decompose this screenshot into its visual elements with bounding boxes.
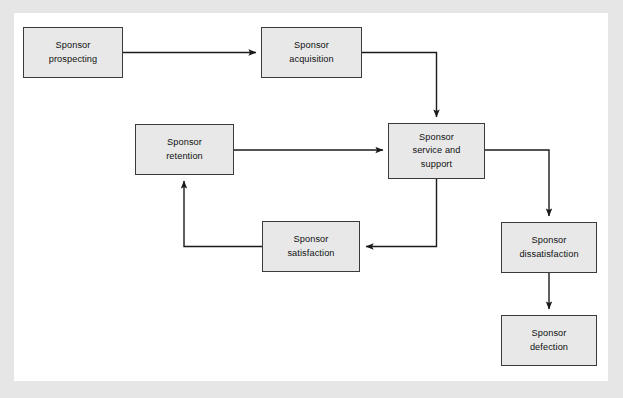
node-sponsor-defection-label: Sponsor defection [530,327,568,353]
node-sponsor-retention[interactable]: Sponsor retention [135,124,234,175]
node-sponsor-acquisition-label: Sponsor acquisition [289,39,334,65]
node-sponsor-service-and-support[interactable]: Sponsor service and support [388,123,485,179]
screenshot-root: Sponsor prospecting Sponsor acquisition … [0,0,623,398]
edge-satisfaction-to-retention [184,181,262,247]
node-sponsor-prospecting[interactable]: Sponsor prospecting [23,27,123,78]
edge-service-to-satisfaction [366,179,437,247]
edge-service-to-dissatisfaction [485,150,549,216]
node-sponsor-prospecting-label: Sponsor prospecting [49,39,98,65]
node-sponsor-defection[interactable]: Sponsor defection [501,315,597,366]
node-sponsor-dissatisfaction[interactable]: Sponsor dissatisfaction [501,222,597,273]
node-sponsor-dissatisfaction-label: Sponsor dissatisfaction [519,234,578,260]
node-sponsor-service-and-support-label: Sponsor service and support [412,131,460,171]
node-sponsor-acquisition[interactable]: Sponsor acquisition [261,27,362,78]
node-sponsor-satisfaction-label: Sponsor satisfaction [287,233,334,259]
node-sponsor-retention-label: Sponsor retention [166,136,203,162]
edge-acquisition-to-service [362,53,437,118]
node-sponsor-satisfaction[interactable]: Sponsor satisfaction [262,221,360,272]
